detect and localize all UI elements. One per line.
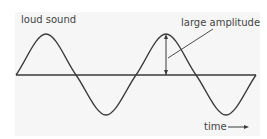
diagram-title: loud sound <box>21 15 76 25</box>
time-arrowhead-icon <box>244 125 249 129</box>
amplitude-label: large amplitude <box>181 18 260 28</box>
amplitude-arrowhead-bottom <box>164 70 168 75</box>
annotation-leader-line <box>168 29 213 58</box>
time-axis-label: time <box>204 122 227 132</box>
